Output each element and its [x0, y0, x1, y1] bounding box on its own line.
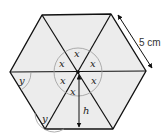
- angle-label-y-bottom-left: y: [41, 113, 48, 124]
- height-label: h: [83, 105, 89, 116]
- center-point: [76, 70, 80, 74]
- angle-label-y-left: y: [18, 75, 25, 86]
- angle-label-x-upper-right: x: [90, 58, 96, 69]
- angle-label-x-bottom: x: [70, 86, 76, 97]
- angle-label-x-lower-right: x: [91, 75, 97, 86]
- hexagon-diagram: 5 cm x x x x x x y y h: [0, 0, 167, 134]
- angle-label-x-top: x: [74, 48, 80, 59]
- side-length-label: 5 cm: [139, 37, 161, 48]
- angle-label-x-upper-left: x: [59, 58, 65, 69]
- angle-label-x-lower-left: x: [60, 75, 66, 86]
